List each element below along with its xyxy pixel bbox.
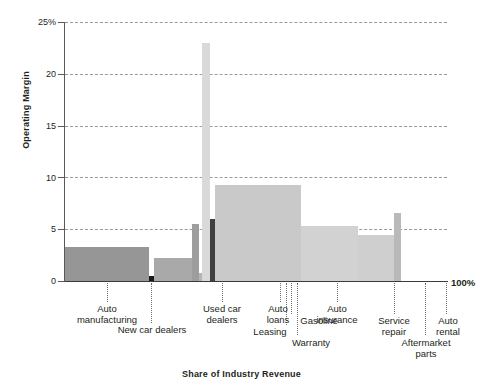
y-tick-label-20: 20 <box>18 69 56 79</box>
x-axis-end-label: 100% <box>451 277 475 288</box>
y-tick-5 <box>58 229 65 230</box>
y-tick-10 <box>58 177 65 178</box>
y-tick-label-10: 10 <box>18 173 56 183</box>
bar-auto-loans <box>192 224 199 281</box>
bar-aftermarket-parts <box>358 235 394 281</box>
category-label-auto-insurance: Auto insurance <box>306 303 368 325</box>
bar-auto-insurance <box>215 185 301 281</box>
y-tick-label-5: 5 <box>18 224 56 234</box>
plot-area <box>65 22 447 281</box>
gridline-20 <box>65 74 447 75</box>
category-label-auto-rental: Auto rental <box>424 315 472 337</box>
gridline-10 <box>65 177 447 178</box>
y-axis-line <box>64 22 65 282</box>
x-axis-line <box>64 281 448 282</box>
y-tick-15 <box>58 126 65 127</box>
leader-used-car-dealers <box>222 283 223 302</box>
leader-auto-manufacturing <box>107 283 108 302</box>
category-label-auto-manufacturing: Auto manufacturing <box>62 303 152 325</box>
gridline-25 <box>65 22 447 23</box>
category-label-leasing: Leasing <box>249 326 291 337</box>
leader-auto-loans <box>280 283 281 302</box>
y-axis-title: Operating Margin <box>21 50 31 170</box>
operating-margin-chart: Operating Margin <box>0 0 483 391</box>
bar-used-car-dealers <box>154 258 191 281</box>
y-tick-label-0: 0 <box>18 276 56 286</box>
leader-service-repair <box>394 283 395 314</box>
bar-auto-rental <box>394 213 401 281</box>
category-label-service-repair: Service repair <box>367 315 421 337</box>
y-tick-20 <box>58 74 65 75</box>
category-label-aftermarket-parts: Aftermarket parts <box>389 337 463 359</box>
y-tick-0 <box>58 281 65 282</box>
y-tick-label-15: 15 <box>18 121 56 131</box>
bar-auto-manufacturing <box>65 247 149 281</box>
category-label-used-car-dealers: Used car dealers <box>186 303 258 325</box>
bar-gasoline <box>202 43 209 281</box>
y-tick-25 <box>58 22 65 23</box>
bar-service-repair <box>301 226 358 281</box>
x-axis-title: Share of Industry Revenue <box>0 369 483 379</box>
category-label-warranty: Warranty <box>283 337 339 348</box>
leader-auto-rental <box>446 283 447 314</box>
category-label-new-car-dealers: New car dealers <box>109 324 195 335</box>
y-tick-label-25: 25% <box>18 17 56 27</box>
leader-auto-insurance <box>337 283 338 302</box>
gridline-15 <box>65 126 447 127</box>
